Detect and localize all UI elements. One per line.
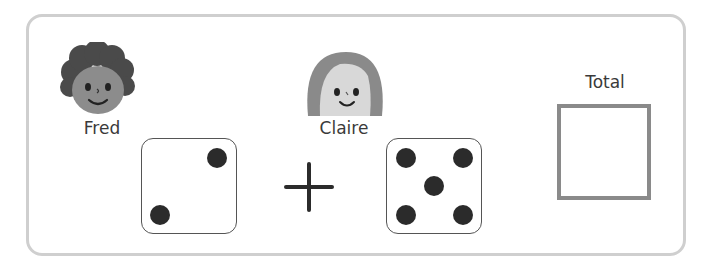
plus-icon bbox=[284, 162, 334, 212]
die-pip bbox=[207, 148, 227, 168]
die-fred bbox=[141, 138, 237, 234]
fred-avatar-icon bbox=[52, 42, 142, 122]
die-pip bbox=[453, 148, 473, 168]
die-claire bbox=[386, 138, 482, 234]
player-name-claire: Claire bbox=[294, 118, 394, 138]
die-pip bbox=[424, 176, 444, 196]
die-pip bbox=[453, 205, 473, 225]
die-pip bbox=[396, 148, 416, 168]
die-pip bbox=[150, 205, 170, 225]
total-answer-box[interactable] bbox=[557, 104, 651, 200]
die-pip bbox=[396, 205, 416, 225]
claire-avatar-icon bbox=[300, 42, 390, 122]
player-name-fred: Fred bbox=[52, 118, 152, 138]
total-label: Total bbox=[560, 72, 650, 92]
